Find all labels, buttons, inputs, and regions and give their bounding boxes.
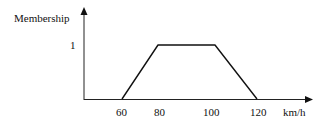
x-tick-80: 80: [154, 106, 166, 118]
membership-curve: [122, 45, 257, 99]
x-axis-arrow-icon: [305, 96, 313, 103]
y-tick-1: 1: [70, 39, 76, 51]
x-axis-label: km/h: [283, 106, 306, 118]
membership-function-chart: Membership 1 60 80 100 120 km/h: [0, 0, 327, 124]
x-tick-60: 60: [116, 106, 128, 118]
y-axis-arrow-icon: [81, 7, 88, 15]
y-axis-label: Membership: [14, 12, 70, 24]
x-tick-120: 120: [250, 106, 267, 118]
x-tick-100: 100: [203, 106, 220, 118]
